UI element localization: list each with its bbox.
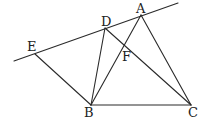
geometry-diagram: A D E F B C [0,0,199,118]
label-B: B [84,105,94,118]
line-through-E-D-A [14,3,178,61]
segment-DC [105,28,191,105]
label-F: F [122,49,131,64]
segment-BA [91,15,141,105]
segment-EB [35,54,91,105]
label-E: E [27,39,37,54]
segment-AC [141,15,191,105]
label-D: D [101,14,111,29]
label-C: C [188,105,198,118]
label-A: A [135,1,146,16]
